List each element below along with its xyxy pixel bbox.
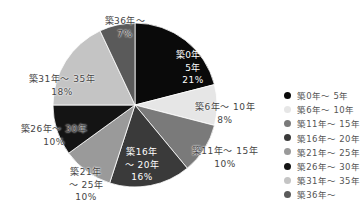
slice-label-26-30: 築26年～ 30年 10% (14, 123, 94, 148)
slice-label-0-5: 築0年～ 5年 21% (170, 49, 216, 87)
slice-label-31-35: 築31年～ 35年 18% (22, 73, 102, 98)
legend-swatch-icon (284, 106, 291, 113)
legend-item: 築36年～ (284, 187, 360, 201)
slice-label-36-plus: 築36年～ 7% (95, 15, 155, 40)
slice-label-16-20: 築16年 ～ 20年 16% (120, 146, 164, 184)
chart-legend: 築0年～ 5年 築6年～ 10年 築11年～ 15年 築16年～ 20年 築21… (284, 88, 360, 202)
legend-item: 築11年～ 15年 (284, 116, 360, 130)
slice-label-6-10: 築6年～ 10年 8% (180, 101, 270, 126)
legend-swatch-icon (284, 148, 291, 155)
legend-swatch-icon (284, 191, 291, 198)
legend-item: 築16年～ 20年 (284, 131, 360, 145)
legend-swatch-icon (284, 92, 291, 99)
legend-item: 築26年～ 30年 (284, 159, 360, 173)
legend-swatch-icon (284, 163, 291, 170)
legend-swatch-icon (284, 120, 291, 127)
legend-item: 築0年～ 5年 (284, 88, 360, 102)
slice-label-21-25: 築21年 ～ 25年 10% (64, 166, 108, 204)
legend-item: 築21年～ 25年 (284, 145, 360, 159)
legend-swatch-icon (284, 134, 291, 141)
slice-label-11-15: 築11年～ 15年 10% (175, 145, 275, 170)
legend-swatch-icon (284, 177, 291, 184)
legend-item: 築31年～ 35年 (284, 173, 360, 187)
legend-item: 築6年～ 10年 (284, 102, 360, 116)
